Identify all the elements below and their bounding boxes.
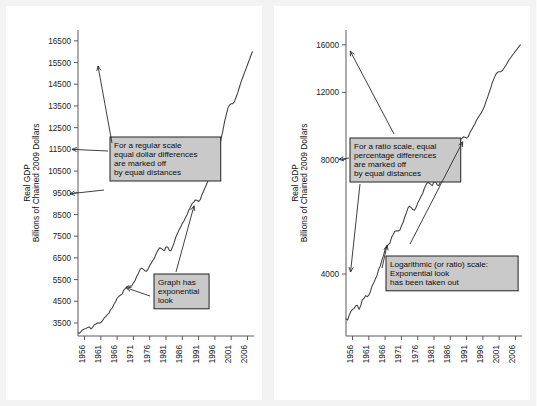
log-scale-note-line-3: has been taken out (390, 278, 460, 287)
y-tick-label: 16000 (316, 41, 339, 50)
x-tick-label: 1961 (362, 345, 371, 364)
y-axis-title-line2: Billions of Chained 2009 Dollars (299, 124, 309, 243)
x-tick-label: 2006 (240, 345, 249, 364)
exponential-look-note-line-1: Graph has (158, 278, 196, 287)
x-tick-label: 1971 (126, 345, 135, 364)
regular-scale-plot-area: 3500450055006500750085009500105001150012… (6, 6, 262, 400)
x-tick-label: 1991 (192, 345, 201, 364)
exponential-look-note-line-2: exponential (158, 287, 200, 296)
regular-scale-note-line-1: For a regular scale (114, 141, 182, 150)
regular-scale-note-line-4: by equal distances (114, 168, 181, 177)
ratio-scale-note-line-2: percentage differences (354, 151, 436, 160)
y-tick-label: 7500 (53, 232, 72, 241)
y-tick-label: 4000 (321, 270, 340, 279)
x-tick-label: 1986 (443, 345, 452, 364)
x-tick-label: 1961 (94, 345, 103, 364)
regular-scale-svg: 3500450055006500750085009500105001150012… (6, 6, 262, 400)
y-tick-label: 16500 (48, 37, 71, 46)
exponential-look-note-arrow-1 (176, 206, 194, 272)
y-tick-label: 13500 (48, 102, 71, 111)
regular-scale-note-line-2: equal dollar differences (114, 150, 198, 159)
regular-scale-note-line-3: are marked off (114, 159, 167, 168)
y-tick-label: 4500 (53, 297, 72, 306)
y-tick-label: 14500 (48, 80, 71, 89)
x-tick-label: 1981 (427, 345, 436, 364)
x-tick-label: 1986 (175, 345, 184, 364)
x-tick-label: 1956 (78, 345, 87, 364)
y-tick-label: 15500 (48, 59, 71, 68)
ratio-scale-note-line-3: are marked off (354, 160, 407, 169)
x-tick-label: 2001 (224, 345, 233, 364)
exponential-look-note-line-3: look (158, 296, 174, 305)
x-tick-label: 1966 (110, 345, 119, 364)
y-tick-label: 8000 (321, 156, 340, 165)
ratio-scale-note-arrow-1 (350, 51, 394, 134)
x-tick-label: 1971 (394, 345, 403, 364)
y-tick-label: 12500 (48, 124, 71, 133)
x-tick-label: 1996 (208, 345, 217, 364)
x-tick-label: 1976 (143, 345, 152, 364)
ratio-scale-svg: 4000800012000160001956196119661971197619… (274, 6, 530, 400)
y-tick-label: 6500 (53, 254, 72, 263)
regular-scale-note-arrow-2 (72, 149, 108, 151)
regular-scale-note-arrow-1 (98, 66, 112, 143)
x-tick-label: 1991 (460, 345, 469, 364)
x-tick-label: 1981 (159, 345, 168, 364)
x-tick-label: 2006 (508, 345, 517, 364)
y-tick-label: 9500 (53, 189, 72, 198)
x-tick-label: 1956 (346, 345, 355, 364)
ratio-scale-panel: 4000800012000160001956196119661971197619… (268, 0, 536, 406)
log-scale-note-line-2: Exponential look (390, 269, 450, 278)
figure-root: 3500450055006500750085009500105001150012… (0, 0, 537, 406)
x-tick-label: 1976 (411, 345, 420, 364)
ratio-scale-plot-area: 4000800012000160001956196119661971197619… (274, 6, 530, 400)
log-scale-note-line-1: Logarithmic (or ratio) scale: (390, 260, 488, 269)
x-tick-label: 1996 (476, 345, 485, 364)
x-tick-label: 2001 (492, 345, 501, 364)
y-tick-label: 5500 (53, 276, 72, 285)
y-tick-label: 8500 (53, 211, 72, 220)
ratio-scale-note-line-1: For a ratio scale, equal (354, 142, 437, 151)
ratio-scale-note-line-4: by equal distances (354, 169, 421, 178)
x-tick-label: 1966 (378, 345, 387, 364)
y-tick-label: 11500 (49, 145, 72, 154)
y-tick-label: 12000 (316, 88, 339, 97)
exponential-look-note-arrow-2 (126, 288, 150, 296)
regular-scale-panel: 3500450055006500750085009500105001150012… (0, 0, 268, 406)
y-axis-title-line2: Billions of Chained 2009 Dollars (31, 124, 41, 243)
y-tick-label: 3500 (53, 319, 72, 328)
y-tick-label: 10500 (48, 167, 71, 176)
regular-scale-note-arrow-3 (70, 190, 104, 194)
ratio-scale-note-arrow-3 (351, 184, 360, 272)
